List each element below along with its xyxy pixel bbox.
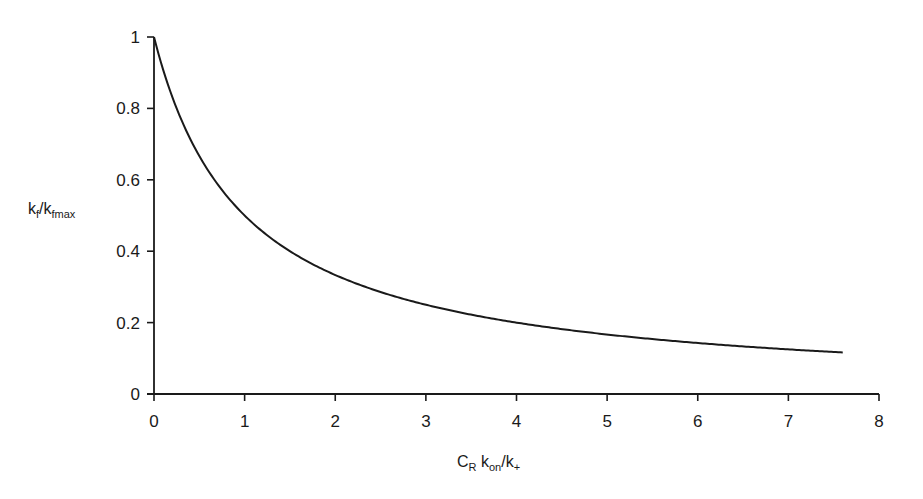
y-tick-label: 0.6	[116, 171, 140, 190]
x-tick-label: 6	[693, 412, 702, 431]
x-tick-label: 1	[240, 412, 249, 431]
x-axis-label: CR kon/k+	[457, 453, 520, 473]
data-curve	[154, 37, 843, 352]
x-tick-label: 2	[331, 412, 340, 431]
y-axis: 00.20.40.60.81	[116, 28, 154, 404]
y-tick-label: 0.8	[116, 99, 140, 118]
x-axis: 012345678	[147, 394, 884, 431]
x-tick-label: 5	[602, 412, 611, 431]
x-tick-label: 0	[149, 412, 158, 431]
line-chart: 00.20.40.60.81 012345678	[0, 0, 923, 499]
y-tick-label: 0	[131, 385, 140, 404]
x-tick-label: 4	[512, 412, 521, 431]
y-tick-label: 0.2	[116, 314, 140, 333]
y-tick-label: 0.4	[116, 242, 140, 261]
y-tick-label: 1	[131, 28, 140, 47]
x-tick-label: 7	[784, 412, 793, 431]
x-tick-label: 3	[421, 412, 430, 431]
y-axis-label: kf/kfmax	[28, 200, 75, 220]
x-tick-label: 8	[874, 412, 883, 431]
